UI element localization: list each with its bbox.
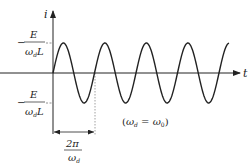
y-axis-label: i <box>44 8 48 21</box>
x-axis-label: t <box>243 67 248 80</box>
svg-text:2π: 2π <box>65 138 79 149</box>
amplitude-label-positive: − E ωdL <box>17 29 45 58</box>
frequency-condition-label: (ωd = ω0) <box>122 116 169 128</box>
svg-text:ωdL: ωdL <box>25 106 44 118</box>
oscillation-diagram: i t − E ωdL − E ωdL 2π ωd (ωd = ω0) <box>0 0 251 168</box>
svg-text:E: E <box>29 89 38 100</box>
svg-text:ωdL: ωdL <box>25 46 44 58</box>
svg-text:E: E <box>29 29 38 40</box>
svg-text:ωd: ωd <box>68 152 80 164</box>
period-label: 2π ωd <box>64 138 82 164</box>
amplitude-label-negative: − E ωdL <box>17 89 45 118</box>
